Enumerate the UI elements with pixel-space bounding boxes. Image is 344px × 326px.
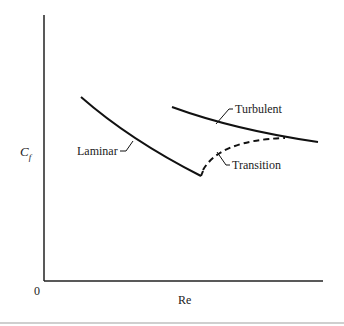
bottom-rule <box>0 322 344 324</box>
cf-vs-re-diagram <box>0 0 344 326</box>
y-axis-label: Cf <box>20 144 31 162</box>
origin-label: 0 <box>34 284 40 299</box>
transition-leader <box>217 152 230 165</box>
turbulent-leader <box>216 109 233 124</box>
turbulent-label: Turbulent <box>235 102 282 117</box>
laminar-tail <box>201 171 203 176</box>
x-axis-label: Re <box>178 293 191 308</box>
transition-label: Transition <box>232 158 281 173</box>
laminar-label: Laminar <box>77 144 118 159</box>
laminar-curve <box>81 97 201 176</box>
laminar-leader <box>120 141 133 151</box>
